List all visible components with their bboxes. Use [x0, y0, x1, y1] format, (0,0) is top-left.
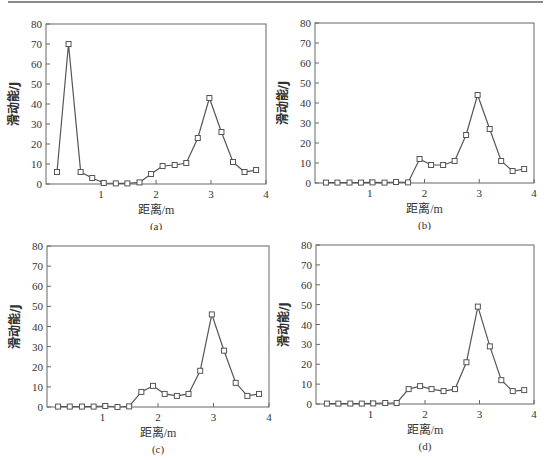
y-tick-label: 0 [307, 398, 313, 410]
y-axis-label: 滑动能/J [276, 302, 291, 347]
square-marker [522, 388, 527, 393]
square-marker [195, 136, 200, 141]
x-tick-label: 3 [477, 187, 483, 199]
square-marker [358, 180, 363, 185]
y-tick-label: 80 [32, 240, 44, 252]
square-marker [137, 180, 142, 185]
x-tick-label: 4 [531, 408, 537, 420]
x-tick-label: 2 [153, 188, 159, 200]
square-marker [429, 387, 434, 392]
square-marker [91, 404, 96, 409]
square-marker [522, 167, 527, 172]
square-marker [452, 159, 457, 164]
y-tick-label: 0 [306, 177, 312, 189]
chart-panel-d: 010203040506070801234距离/m滑动能/J(d) [275, 222, 550, 460]
square-marker [233, 380, 238, 385]
y-tick-label: 50 [301, 299, 313, 311]
square-marker [231, 160, 236, 165]
y-tick-label: 30 [301, 338, 313, 350]
y-tick-label: 70 [300, 37, 312, 49]
square-marker [222, 348, 227, 353]
y-tick-label: 10 [32, 381, 44, 393]
square-marker [184, 161, 189, 166]
square-marker [406, 387, 411, 392]
y-tick-label: 0 [38, 401, 44, 413]
y-tick-label: 50 [32, 300, 44, 312]
panel-caption: (d) [419, 440, 432, 453]
square-marker [441, 389, 446, 394]
square-marker [125, 181, 130, 186]
square-marker [475, 93, 480, 98]
line-chart: 010203040506070801234距离/m滑动能/J(b) [275, 0, 550, 230]
chart-panel-b: 010203040506070801234距离/m滑动能/J(b) [275, 0, 550, 230]
y-tick-label: 50 [300, 77, 312, 89]
y-axis-label: 滑动能/J [6, 82, 21, 127]
square-marker [429, 163, 434, 168]
square-marker [219, 130, 224, 135]
y-tick-label: 40 [32, 321, 44, 333]
square-marker [139, 389, 144, 394]
y-tick-label: 20 [300, 137, 312, 149]
x-axis-label: 距离/m [407, 422, 444, 437]
square-marker [464, 133, 469, 138]
square-marker [254, 168, 259, 173]
square-marker [242, 170, 247, 175]
x-tick-label: 2 [155, 411, 161, 423]
square-marker [127, 404, 132, 409]
chart-panel-c: 010203040506070801234距离/m滑动能/J(c) [0, 222, 275, 460]
y-tick-label: 30 [32, 341, 44, 353]
y-tick-label: 30 [31, 118, 43, 130]
y-axis-label: 滑动能/J [7, 304, 22, 349]
square-marker [66, 42, 71, 47]
line-chart: 010203040506070801234距离/m滑动能/J(a) [0, 0, 275, 230]
y-tick-label: 40 [31, 98, 43, 110]
square-marker [499, 159, 504, 164]
square-marker [359, 401, 364, 406]
square-marker [475, 304, 480, 309]
series-line [58, 314, 259, 407]
square-marker [382, 180, 387, 185]
y-tick-label: 60 [300, 57, 312, 69]
x-tick-label: 1 [367, 187, 373, 199]
square-marker [209, 312, 214, 317]
square-marker [510, 169, 515, 174]
y-tick-label: 10 [31, 158, 43, 170]
square-marker [172, 163, 177, 168]
y-tick-label: 20 [301, 358, 313, 370]
square-marker [383, 401, 388, 406]
y-tick-label: 70 [32, 260, 44, 272]
x-tick-label: 3 [477, 408, 483, 420]
square-marker [113, 181, 118, 186]
x-tick-label: 4 [266, 411, 272, 423]
square-marker [160, 164, 165, 169]
square-marker [115, 405, 120, 410]
square-marker [499, 378, 504, 383]
x-tick-label: 1 [368, 408, 374, 420]
x-tick-label: 3 [211, 411, 217, 423]
square-marker [394, 180, 399, 185]
y-tick-label: 80 [31, 18, 43, 30]
square-marker [418, 384, 423, 389]
y-tick-label: 0 [37, 178, 43, 190]
chart-panel-a: 010203040506070801234距离/m滑动能/J(a) [0, 0, 275, 230]
x-tick-label: 1 [98, 188, 104, 200]
y-tick-label: 40 [301, 319, 313, 331]
square-marker [67, 404, 72, 409]
square-marker [487, 344, 492, 349]
square-marker [162, 391, 167, 396]
square-marker [90, 176, 95, 181]
square-marker [417, 157, 422, 162]
x-axis-label: 距离/m [406, 201, 443, 216]
y-tick-label: 50 [31, 78, 43, 90]
square-marker [103, 403, 108, 408]
square-marker [55, 170, 60, 175]
square-marker [487, 127, 492, 132]
square-marker [174, 393, 179, 398]
square-marker [151, 383, 156, 388]
x-tick-label: 4 [531, 187, 537, 199]
square-marker [101, 181, 106, 186]
x-tick-label: 4 [263, 188, 269, 200]
x-axis-label: 距离/m [140, 425, 177, 440]
panel-caption: (c) [152, 443, 165, 456]
x-tick-label: 3 [208, 188, 214, 200]
